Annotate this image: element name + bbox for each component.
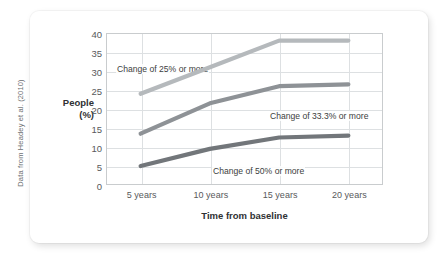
plot-area: 05101520253035405 years10 years15 years2… — [106, 33, 383, 185]
y-axis-tick-label: 10 — [91, 143, 102, 154]
y-axis-tick-label: 5 — [97, 162, 102, 173]
x-axis-tick-label: 10 years — [194, 190, 229, 200]
x-axis-tick-label: 15 years — [263, 190, 298, 200]
gridline-horizontal — [107, 91, 382, 92]
gridline-vertical — [142, 34, 143, 184]
y-axis-tick-label: 0 — [97, 181, 102, 192]
gridline-vertical — [211, 34, 212, 184]
gridline-horizontal — [107, 53, 382, 54]
y-axis-tick-label: 20 — [91, 105, 102, 116]
gridline-horizontal — [107, 148, 382, 149]
y-axis-title-line1: People — [44, 97, 94, 109]
series-label-33-percent: Change of 33.3% or more — [269, 111, 369, 121]
series-label-50-percent: Change of 50% or more — [212, 166, 305, 176]
page-background: Data from Headey et al. (2010) People (%… — [0, 0, 440, 265]
gridline-horizontal — [107, 129, 382, 130]
x-axis-title: Time from baseline — [106, 210, 383, 221]
y-axis-title: People (%) — [44, 97, 94, 120]
y-axis-tick-label: 30 — [91, 67, 102, 78]
gridline-vertical — [280, 34, 281, 184]
y-axis-tick-label: 40 — [91, 29, 102, 40]
line-chart: People (%) 05101520253035405 years10 yea… — [30, 11, 428, 243]
figure-card: People (%) 05101520253035405 years10 yea… — [30, 11, 428, 243]
y-axis-tick-label: 15 — [91, 124, 102, 135]
source-credit-text: Data from Headey et al. (2010) — [16, 79, 25, 186]
source-credit: Data from Headey et al. (2010) — [10, 0, 30, 265]
y-axis-title-line2: (%) — [44, 109, 94, 121]
y-axis-tick-label: 25 — [91, 86, 102, 97]
x-axis-tick-label: 20 years — [332, 190, 367, 200]
x-axis-tick-label: 5 years — [127, 190, 157, 200]
series-label-25-percent: Change of 25% or more — [116, 64, 209, 74]
gridline-vertical — [349, 34, 350, 184]
y-axis-tick-label: 35 — [91, 48, 102, 59]
